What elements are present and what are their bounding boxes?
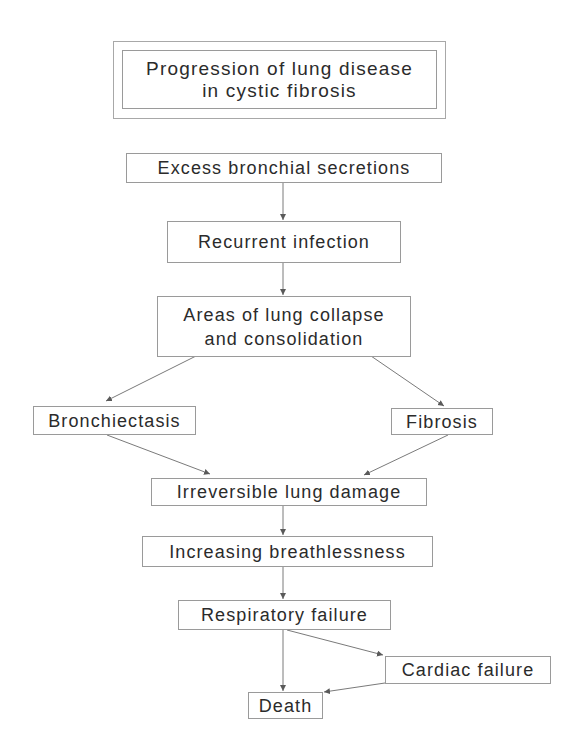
node-label: Irreversible lung damage	[177, 481, 402, 503]
node-cardiac-failure: Cardiac failure	[385, 656, 551, 684]
node-bronchiectasis: Bronchiectasis	[33, 406, 196, 435]
node-label: Recurrent infection	[198, 231, 370, 253]
node-recurrent-infection: Recurrent infection	[167, 221, 401, 263]
node-label: Cardiac failure	[402, 659, 535, 681]
node-death: Death	[248, 692, 323, 719]
node-label: Excess bronchial secretions	[158, 157, 411, 179]
node-label-line-1: Areas of lung collapse	[183, 303, 384, 327]
diagram-title: Progression of lung disease in cystic fi…	[122, 50, 437, 109]
arrow-bronchiectasis-to-irreversible	[107, 435, 210, 474]
arrow-areas-to-bronchiectasis	[106, 356, 196, 401]
node-label: Bronchiectasis	[48, 410, 180, 432]
arrow-fibrosis-to-irreversible	[364, 435, 448, 475]
arrow-respiratory-to-cardiac	[287, 630, 383, 655]
node-label: Respiratory failure	[201, 604, 368, 626]
node-fibrosis: Fibrosis	[391, 408, 493, 435]
node-label: Death	[259, 695, 313, 717]
flowchart-canvas: Progression of lung disease in cystic fi…	[0, 0, 581, 750]
title-line-2: in cystic fibrosis	[202, 80, 357, 102]
node-lung-collapse-consolidation: Areas of lung collapse and consolidation	[157, 296, 411, 357]
title-line-1: Progression of lung disease	[146, 58, 413, 80]
node-label: Fibrosis	[406, 411, 478, 433]
arrow-areas-to-fibrosis	[371, 356, 444, 406]
node-excess-bronchial-secretions: Excess bronchial secretions	[126, 153, 442, 183]
node-label: Increasing breathlessness	[169, 541, 406, 563]
node-irreversible-lung-damage: Irreversible lung damage	[151, 478, 427, 506]
node-increasing-breathlessness: Increasing breathlessness	[142, 536, 433, 567]
arrow-cardiac-to-death	[324, 683, 385, 692]
node-label-line-2: and consolidation	[205, 327, 364, 351]
node-respiratory-failure: Respiratory failure	[178, 600, 391, 630]
